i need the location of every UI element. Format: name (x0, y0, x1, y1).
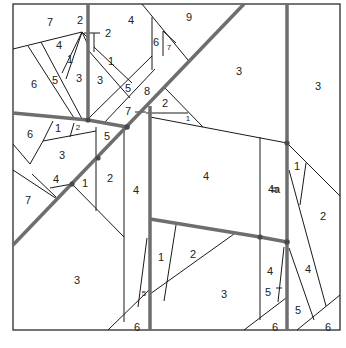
piece-label: 3 (221, 288, 227, 300)
piece-label: 6 (31, 78, 37, 90)
piece-label: 4 (133, 184, 139, 196)
piece-label: 2 (107, 172, 113, 184)
piece-label: 6 (325, 321, 331, 333)
piece-label: 6 (153, 36, 159, 48)
piece-label: 2 (190, 248, 196, 260)
piece-label: 5 (52, 74, 58, 86)
piece-label: 7 (47, 16, 53, 28)
piece-label: 1 (108, 55, 114, 67)
piece-label: 1 (158, 251, 164, 263)
piece-label: 6 (27, 128, 33, 140)
pattern-border (13, 4, 340, 330)
piece-label: 4a (268, 183, 281, 195)
piece-label: 4 (305, 263, 311, 275)
piece-label: 2 (76, 123, 81, 132)
piece-label: 4 (128, 14, 134, 26)
piece-label: 5 (142, 289, 147, 298)
piece-label: 6 (272, 321, 278, 333)
piece-label: 3 (97, 74, 103, 86)
paper-piecing-diagram: 7224941671653358337216125344a12414271244… (0, 0, 346, 348)
piece-label: 1 (55, 122, 61, 134)
piece-label: 1 (82, 177, 88, 189)
piece-label: 1 (294, 160, 300, 172)
piece-label: 9 (186, 11, 192, 23)
piece-label: 2 (162, 97, 168, 109)
piece-label: 1 (67, 53, 73, 65)
piece-label: 8 (144, 85, 150, 97)
piece-label: 1 (186, 114, 191, 123)
piece-label: 4 (56, 39, 62, 51)
piece-label: 5 (125, 82, 131, 94)
piece-label: 6 (134, 321, 140, 333)
piece-label: 3 (59, 149, 65, 161)
piece-label: 7 (167, 43, 172, 52)
piece-label: 4 (53, 173, 59, 185)
piece-label: 5 (295, 304, 301, 316)
piece-label: 7 (25, 194, 31, 206)
piece-label: 7 (125, 105, 131, 117)
piece-label: 3 (74, 274, 80, 286)
piece-label: 2 (105, 27, 111, 39)
piece-label: 3 (236, 65, 242, 77)
piece-label: 4 (203, 170, 209, 182)
piece-label: 3 (76, 72, 82, 84)
piece-label: 4 (267, 265, 273, 277)
piece-label: 5 (265, 286, 271, 298)
piece-label: 2 (77, 14, 83, 26)
piece-label: 3 (315, 80, 321, 92)
piece-label: 5 (104, 130, 110, 142)
piece-label: 2 (320, 210, 326, 222)
